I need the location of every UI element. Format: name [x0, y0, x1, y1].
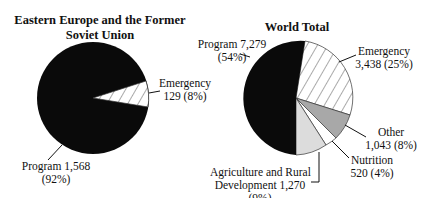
right-agri-value: Development 1,270 [210, 179, 310, 192]
right-other-name: Other [360, 126, 422, 139]
left-emergency-value: 129 (8%) [155, 90, 215, 103]
left-chart-title: Eastern Europe and the Former Soviet Uni… [10, 13, 190, 43]
right-program-name: Program 7,279 [196, 38, 268, 51]
right-other-value: 1,043 (8%) [360, 139, 422, 152]
left-title-line1: Eastern Europe and the Former [10, 13, 190, 28]
left-label-program: Program 1,568 (92%) [18, 160, 94, 186]
left-title-line2: Soviet Union [10, 28, 190, 43]
left-pie [37, 42, 160, 160]
right-label-nutrition: Nutrition 520 (4%) [347, 154, 397, 180]
right-label-agriculture: Agriculture and Rural Development 1,270 … [210, 166, 310, 198]
right-emergency-value: 3,438 (25%) [350, 58, 418, 71]
left-program-name: Program 1,568 [18, 160, 94, 173]
right-agri-leader [311, 152, 319, 182]
right-emergency-name: Emergency [350, 45, 418, 58]
right-program-value: (54%) [196, 51, 268, 64]
right-nutrition-name: Nutrition [347, 154, 397, 167]
right-agri-percent: (9%) [210, 192, 310, 198]
right-label-other: Other 1,043 (8%) [360, 126, 422, 152]
left-program-value: (92%) [18, 173, 94, 186]
right-chart-title: World Total [262, 20, 332, 35]
right-label-program: Program 7,279 (54%) [196, 38, 268, 64]
left-program-leader [48, 145, 62, 160]
left-label-emergency: Emergency 129 (8%) [155, 77, 215, 103]
left-emergency-name: Emergency [155, 77, 215, 90]
right-label-emergency: Emergency 3,438 (25%) [350, 45, 418, 71]
right-agri-name: Agriculture and Rural [210, 166, 310, 179]
right-nutrition-value: 520 (4%) [347, 167, 397, 180]
